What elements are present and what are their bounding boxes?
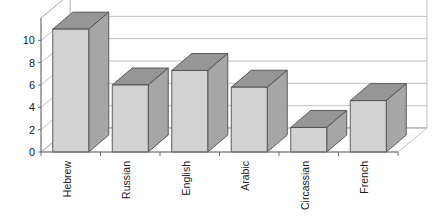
y-axis-tick-label: 2 xyxy=(29,124,35,136)
y-axis-tick-label: 6 xyxy=(29,79,35,91)
x-axis-category-label: French xyxy=(358,161,370,194)
x-axis-category-label: English xyxy=(180,161,192,196)
x-axis-category-label: Hebrew xyxy=(61,161,73,198)
y-axis-tick-label: 0 xyxy=(29,146,35,158)
x-axis-category-label: Russian xyxy=(120,161,132,199)
bar-front-face xyxy=(172,70,208,152)
x-axis: HebrewRussianEnglishArabicCircassianFren… xyxy=(41,152,398,210)
bar-russian xyxy=(112,68,168,152)
bar-front-face xyxy=(231,87,267,152)
bar-side-face xyxy=(208,53,228,152)
y-axis-tick-label: 8 xyxy=(29,57,35,69)
bar-side-face xyxy=(89,12,109,152)
y-axis-tick-label: 4 xyxy=(29,101,35,113)
bar-front-face xyxy=(112,85,148,152)
bar-arabic xyxy=(231,70,287,152)
chart-canvas: 0246810HebrewRussianEnglishArabicCircass… xyxy=(0,0,441,219)
bar-chart-3d: 0246810HebrewRussianEnglishArabicCircass… xyxy=(0,0,441,219)
bar-front-face xyxy=(53,29,89,152)
bar-front-face xyxy=(291,127,327,152)
y-axis: 0246810 xyxy=(23,18,41,158)
x-axis-category-label: Circassian xyxy=(299,161,311,210)
bar-english xyxy=(172,53,228,152)
bar-hebrew xyxy=(53,12,109,152)
bar-french xyxy=(350,84,406,152)
x-axis-category-label: Arabic xyxy=(239,161,251,191)
bar-front-face xyxy=(350,101,386,152)
y-axis-tick-label: 10 xyxy=(23,34,35,46)
